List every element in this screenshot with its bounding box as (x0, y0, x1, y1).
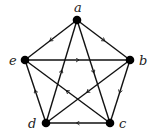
node-label-d: d (28, 116, 36, 131)
node-c (106, 119, 115, 128)
edge-a-c (77, 20, 110, 123)
node-a (73, 16, 82, 25)
edge-d-e (25, 60, 46, 123)
node-label-c: c (119, 116, 127, 131)
node-e (21, 56, 30, 65)
edge-d-a (46, 20, 77, 123)
edge-b-d (46, 60, 130, 123)
node-label-b: b (139, 53, 147, 68)
node-d (42, 119, 51, 128)
edge-a-b (77, 20, 130, 60)
edge-a-e (25, 20, 77, 60)
nodes-layer (21, 16, 135, 128)
edges-layer (25, 20, 130, 123)
node-label-e: e (9, 53, 17, 68)
edge-c-e (25, 60, 110, 123)
node-b (126, 56, 135, 65)
node-label-a: a (74, 0, 82, 15)
edge-b-c (110, 60, 130, 123)
directed-graph: abcde (0, 0, 151, 137)
